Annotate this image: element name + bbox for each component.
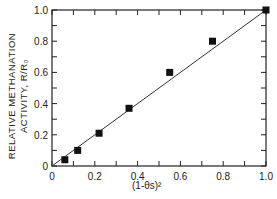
x-axis-label: (1-θs)² [132,180,161,191]
svg-text:0: 0 [42,161,48,172]
svg-text:0.2: 0.2 [34,130,48,141]
y-axis-label: RELATIVE METHANATION ACTIVITY, R/R₀ [6,6,30,186]
chart: 00.20.40.60.81.000.20.40.60.81.0 (1-θs)²… [0,0,277,199]
svg-text:1.0: 1.0 [34,5,48,16]
svg-text:0.8: 0.8 [34,36,48,47]
svg-text:0.8: 0.8 [216,171,230,182]
svg-text:0.6: 0.6 [173,171,187,182]
svg-text:0: 0 [49,171,55,182]
svg-text:0.4: 0.4 [34,99,48,110]
svg-text:1.0: 1.0 [259,171,273,182]
svg-text:0.6: 0.6 [34,67,48,78]
y-label-line1: RELATIVE METHANATION [6,6,18,186]
svg-text:0.2: 0.2 [88,171,102,182]
scatter-plot: 00.20.40.60.81.000.20.40.60.81.0 [0,0,277,199]
y-label-line2: ACTIVITY, R/R₀ [18,6,30,186]
